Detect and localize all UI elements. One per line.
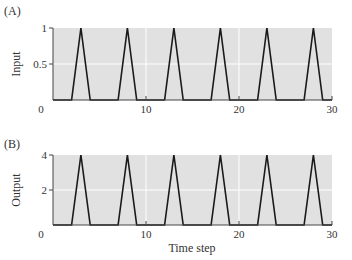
y-tick-label: 2 xyxy=(42,184,48,196)
y-tick-label: 4 xyxy=(42,149,48,161)
x-tick-label: 20 xyxy=(234,103,246,115)
y-tick-label: 0.5 xyxy=(33,58,47,70)
x-tick-label: 30 xyxy=(327,228,339,240)
panel-b-label: (B) xyxy=(4,137,20,151)
x-tick-label: 10 xyxy=(141,103,153,115)
x-tick-label: 0 xyxy=(38,228,44,240)
panel-a-label: (A) xyxy=(4,4,21,18)
x-tick-label: 0 xyxy=(38,103,44,115)
figure: (A) 01020300.51 Input (B) 010203024 Outp… xyxy=(0,0,352,260)
y-axis-a-label: Input xyxy=(9,51,23,77)
x-tick-label: 20 xyxy=(234,228,246,240)
x-axis-label: Time step xyxy=(168,241,215,255)
y-axis-b-label: Output xyxy=(9,173,23,207)
panel-b: (B) 010203024 Output Time step xyxy=(4,137,338,255)
x-tick-label: 10 xyxy=(141,228,153,240)
y-tick-label: 1 xyxy=(42,22,48,34)
x-tick-label: 30 xyxy=(327,103,339,115)
panel-a: (A) 01020300.51 Input xyxy=(4,4,338,115)
